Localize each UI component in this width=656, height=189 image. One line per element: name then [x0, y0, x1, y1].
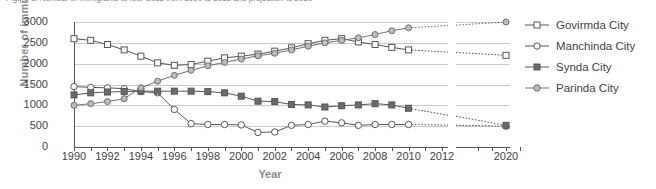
series-line	[409, 108, 448, 115]
x-axis-line	[456, 147, 510, 148]
legend-marker-icon	[524, 60, 550, 74]
data-point-marker	[406, 105, 412, 111]
data-point-marker	[406, 25, 412, 31]
tick-mark	[258, 147, 259, 151]
data-point-marker	[355, 122, 361, 128]
data-point-marker	[171, 72, 177, 78]
tick-mark	[91, 147, 92, 151]
data-point-marker	[338, 120, 344, 126]
data-point-marker	[372, 101, 378, 107]
data-point-marker	[322, 104, 328, 110]
series-line	[456, 116, 506, 125]
data-point-marker	[406, 47, 412, 53]
figure-title: Figure 1: Number of immigrants to four c…	[6, 0, 646, 3]
data-point-marker	[272, 50, 278, 56]
y-tick-label: 500	[8, 119, 48, 131]
legend-label: Manchinda City	[556, 40, 635, 52]
data-point-marker	[88, 37, 94, 43]
legend-marker-icon	[524, 18, 550, 32]
series-line	[456, 22, 506, 25]
data-point-marker	[171, 62, 177, 68]
chart-figure: Figure 1: Number of immigrants to four c…	[0, 0, 656, 189]
y-tick-label: 2000	[8, 57, 48, 69]
data-point-marker	[389, 102, 395, 108]
data-point-marker	[104, 42, 110, 48]
data-point-marker	[238, 93, 244, 99]
tick-mark	[208, 147, 209, 151]
data-point-marker	[121, 96, 127, 102]
legend-marker-icon	[524, 81, 550, 95]
tick-mark	[107, 147, 108, 151]
data-point-marker	[188, 67, 194, 73]
x-axis-label: Year	[60, 168, 480, 180]
data-point-marker	[104, 99, 110, 105]
legend-item-synda[interactable]: Synda City	[524, 56, 654, 77]
tick-mark	[291, 147, 292, 151]
chart-legend: Govirmda CityManchinda CitySynda CityPar…	[524, 14, 654, 98]
data-point-marker	[255, 53, 261, 59]
data-point-marker	[188, 120, 194, 126]
legend-item-govirmda[interactable]: Govirmda City	[524, 14, 654, 35]
series-line	[409, 125, 448, 126]
data-point-marker	[372, 32, 378, 38]
tick-mark	[308, 147, 309, 151]
data-point-marker	[171, 106, 177, 112]
y-tick-label: 2500	[8, 36, 48, 48]
data-point-marker	[205, 89, 211, 95]
data-point-marker	[238, 56, 244, 62]
data-point-marker	[88, 101, 94, 107]
data-point-marker	[71, 102, 77, 108]
tick-mark	[442, 147, 443, 151]
tick-mark	[191, 147, 192, 151]
legend-label: Parinda City	[556, 82, 619, 94]
data-point-marker	[405, 121, 411, 127]
tick-mark	[506, 147, 507, 151]
data-point-marker	[272, 129, 278, 135]
y-tick-label: 1500	[8, 78, 48, 90]
x-tick-label: 2012	[422, 150, 462, 162]
series-line	[456, 52, 506, 55]
data-point-marker	[188, 88, 194, 94]
data-point-marker	[503, 52, 509, 58]
data-point-marker	[222, 90, 228, 96]
data-point-marker	[155, 88, 161, 94]
tick-mark	[342, 147, 343, 151]
data-point-marker	[155, 78, 161, 84]
data-point-marker	[138, 85, 144, 91]
series-line	[409, 25, 448, 27]
tick-mark	[392, 147, 393, 151]
tick-mark	[478, 147, 479, 151]
data-point-marker	[221, 121, 227, 127]
tick-mark	[375, 147, 376, 151]
data-point-marker	[503, 122, 509, 128]
tick-mark	[492, 147, 493, 151]
data-point-marker	[339, 37, 345, 43]
data-point-marker	[372, 42, 378, 48]
legend-item-manchinda[interactable]: Manchinda City	[524, 35, 654, 56]
data-point-marker	[171, 88, 177, 94]
data-point-marker	[322, 40, 328, 46]
series-line	[409, 50, 448, 52]
data-point-marker	[155, 60, 161, 66]
data-point-marker	[355, 35, 361, 41]
data-point-marker	[355, 102, 361, 108]
data-point-marker	[205, 63, 211, 69]
data-point-marker	[121, 89, 127, 95]
data-point-marker	[138, 53, 144, 59]
tick-mark	[358, 147, 359, 151]
legend-item-parinda[interactable]: Parinda City	[524, 77, 654, 98]
data-point-marker	[389, 121, 395, 127]
data-point-marker	[121, 47, 127, 53]
data-point-marker	[188, 62, 194, 68]
data-point-marker	[389, 28, 395, 34]
tick-mark	[158, 147, 159, 151]
tick-mark	[409, 147, 410, 151]
data-point-marker	[272, 99, 278, 105]
data-point-marker	[255, 129, 261, 135]
data-point-marker	[288, 102, 294, 108]
tick-mark	[275, 147, 276, 151]
data-point-marker	[255, 98, 261, 104]
series-line	[456, 125, 506, 126]
data-point-marker	[71, 92, 77, 98]
tick-mark	[124, 147, 125, 151]
